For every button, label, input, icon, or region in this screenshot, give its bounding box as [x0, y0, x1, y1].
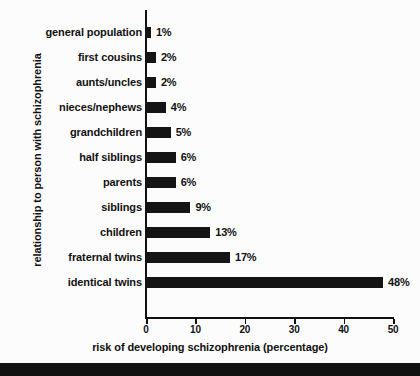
- bar-value-label: 2%: [161, 45, 177, 70]
- category-label: parents: [103, 170, 142, 195]
- bar: [146, 252, 230, 263]
- bar: [146, 177, 176, 188]
- x-tick-label: 10: [180, 324, 210, 335]
- bar-value-label: 17%: [235, 245, 256, 270]
- x-axis-title: risk of developing schizophrenia (percen…: [0, 341, 420, 353]
- category-label: general population: [45, 20, 142, 45]
- bar-value-label: 48%: [388, 270, 409, 295]
- bar-row: identical twins48%: [0, 270, 420, 295]
- bottom-black-band: [0, 363, 420, 376]
- bar-value-label: 1%: [156, 20, 172, 45]
- bar: [146, 227, 210, 238]
- category-label: nieces/nephews: [59, 95, 142, 120]
- bar: [146, 102, 166, 113]
- category-label: aunts/uncles: [76, 70, 142, 95]
- category-label: children: [100, 220, 142, 245]
- bar-row: aunts/uncles2%: [0, 70, 420, 95]
- category-label: identical twins: [68, 270, 142, 295]
- bar-row: siblings9%: [0, 195, 420, 220]
- bar-row: general population1%: [0, 20, 420, 45]
- bar: [146, 127, 171, 138]
- bar: [146, 52, 156, 63]
- bar-value-label: 6%: [181, 145, 197, 170]
- bar-row: parents6%: [0, 170, 420, 195]
- bar-value-label: 13%: [215, 220, 236, 245]
- x-axis-line: [145, 317, 394, 319]
- bar-row: fraternal twins17%: [0, 245, 420, 270]
- category-label: siblings: [101, 195, 142, 220]
- bar-row: nieces/nephews4%: [0, 95, 420, 120]
- bar: [146, 152, 176, 163]
- bar-value-label: 2%: [161, 70, 177, 95]
- category-label: half siblings: [79, 145, 142, 170]
- x-tick-label: 0: [131, 324, 161, 335]
- x-tick-label: 50: [378, 324, 408, 335]
- bar-value-label: 5%: [176, 120, 192, 145]
- x-tick-label: 40: [329, 324, 359, 335]
- bar-value-label: 9%: [195, 195, 211, 220]
- bar: [146, 202, 190, 213]
- x-tick-label: 20: [230, 324, 260, 335]
- bar: [146, 77, 156, 88]
- bar-row: grandchildren5%: [0, 120, 420, 145]
- category-label: grandchildren: [70, 120, 142, 145]
- x-tick-label: 30: [279, 324, 309, 335]
- bar-row: half siblings6%: [0, 145, 420, 170]
- bar: [146, 27, 151, 38]
- bar: [146, 277, 383, 288]
- category-label: first cousins: [78, 45, 142, 70]
- chart-figure: relationship to person with schizophreni…: [0, 0, 420, 376]
- bar-row: children13%: [0, 220, 420, 245]
- category-label: fraternal twins: [68, 245, 142, 270]
- bar-value-label: 6%: [181, 170, 197, 195]
- bar-value-label: 4%: [171, 95, 187, 120]
- bar-row: first cousins2%: [0, 45, 420, 70]
